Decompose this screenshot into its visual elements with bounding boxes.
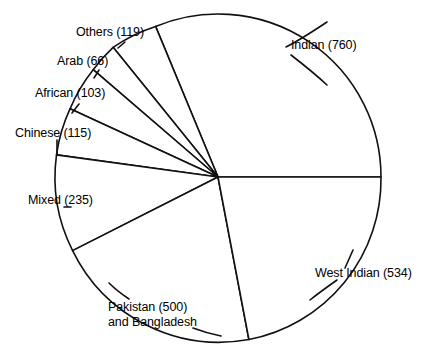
pie-label-pakistan-line2: and Bangladesh (108, 315, 197, 330)
pie-label-indian: Indian (760) (291, 38, 357, 53)
pie-label-pakistan-bangladesh: Pakistan (500) and Bangladesh (108, 300, 197, 329)
pie-label-african: African (103) (35, 86, 105, 101)
pie-label-arab: Arab (66) (57, 54, 108, 69)
pie-label-others: Others (119) (76, 25, 144, 40)
pie-chart: Indian (760) West Indian (534) Pakistan … (0, 0, 434, 360)
pie-label-chinese: Chinese (115) (15, 126, 91, 141)
pie-label-west-indian: West Indian (534) (315, 266, 412, 281)
pie-label-mixed: Mixed (235) (28, 193, 93, 208)
pie-label-pakistan-line1: Pakistan (500) (108, 300, 197, 315)
